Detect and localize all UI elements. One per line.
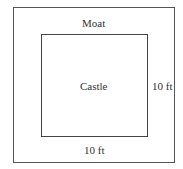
bottom-dimension-label: 10 ft [84, 144, 104, 156]
castle-label: Castle [80, 80, 108, 92]
moat-label: Moat [82, 17, 105, 29]
right-dimension-label: 10 ft [152, 80, 172, 92]
